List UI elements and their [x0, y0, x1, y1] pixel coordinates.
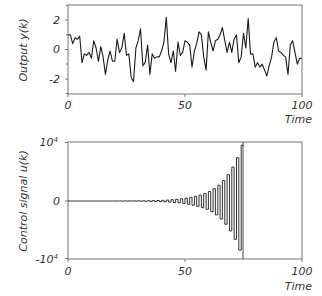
figure: 2 0 -2 0 50 100 Time Output y(k) 104 0 -… — [0, 0, 322, 296]
control-signal-series-line — [68, 145, 244, 250]
bottom-ylabel: Control signal u(k) — [17, 150, 30, 251]
bottom-xlabel: Time — [285, 280, 312, 293]
top-xtick-0: 0 — [65, 99, 72, 112]
bottom-xtick-0: 0 — [65, 265, 72, 278]
bottom-xtick-50: 50 — [178, 265, 192, 278]
top-ytick-minus2: -2 — [49, 73, 60, 86]
bottom-ytick-top: 104 — [40, 136, 58, 149]
top-plot-frame — [68, 5, 302, 94]
top-plot: 2 0 -2 0 50 100 Time Output y(k) — [17, 5, 313, 126]
top-xtick-100: 100 — [292, 99, 313, 112]
bottom-plot: 104 0 -104 0 50 100 Time Control signal … — [17, 136, 313, 293]
output-series-line — [68, 17, 302, 82]
bottom-x-ticks — [68, 259, 302, 262]
top-xtick-50: 50 — [178, 99, 192, 112]
bottom-xtick-100: 100 — [292, 265, 313, 278]
top-ylabel: Output y(k) — [17, 18, 30, 81]
top-ytick-0: 0 — [53, 43, 60, 56]
bottom-ytick-bottom: -104 — [36, 253, 58, 266]
bottom-ytick-0: 0 — [53, 195, 60, 208]
top-xlabel: Time — [285, 113, 312, 126]
top-ytick-2: 2 — [53, 14, 60, 27]
